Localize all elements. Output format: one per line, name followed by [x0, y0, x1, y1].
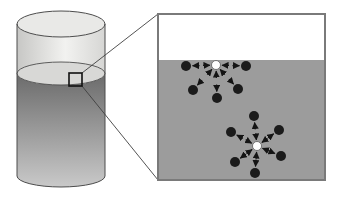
- attraction-arrow-outward: [255, 123, 256, 130]
- dark-molecule: [230, 157, 240, 167]
- figure-canvas: [0, 0, 341, 202]
- light-molecule: [253, 142, 262, 151]
- light-molecule: [212, 61, 221, 70]
- magnified-inset: [158, 14, 325, 180]
- dark-molecule: [241, 61, 251, 71]
- attraction-arrow-inward: [256, 152, 257, 159]
- cylinder-opening-ellipse: [17, 11, 105, 37]
- beaker-cylinder: [17, 11, 105, 187]
- inset-liquid-region: [158, 60, 325, 180]
- surface-tension-diagram: [0, 0, 341, 202]
- dark-molecule: [212, 93, 222, 103]
- dark-molecule: [276, 151, 286, 161]
- dark-molecule: [181, 61, 191, 71]
- dark-molecule: [233, 84, 243, 94]
- liquid-body: [17, 74, 105, 188]
- dark-molecule: [249, 111, 259, 121]
- dark-molecule: [188, 85, 198, 95]
- dark-molecule: [274, 125, 284, 135]
- attraction-arrow-outward: [256, 160, 257, 167]
- dark-molecule: [226, 127, 236, 137]
- dark-molecule: [250, 168, 260, 178]
- attraction-arrow-inward: [256, 133, 257, 140]
